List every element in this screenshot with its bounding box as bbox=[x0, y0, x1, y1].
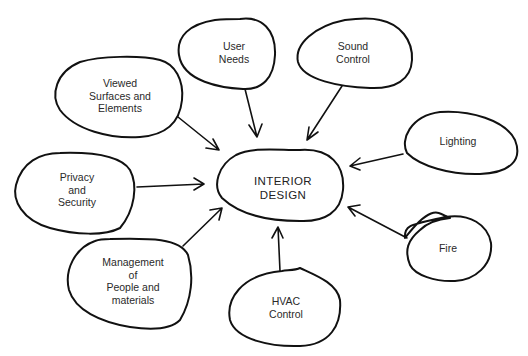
privacy-security-label: Privacy and Security bbox=[58, 171, 96, 209]
center-node-label: INTERIOR DESIGN bbox=[254, 174, 312, 202]
viewed-surfaces-label: Viewed Surfaces and Elements bbox=[89, 77, 151, 115]
hvac-control-label: HVAC Control bbox=[269, 295, 303, 320]
sound-control-label: Sound Control bbox=[336, 40, 370, 65]
lighting-label: Lighting bbox=[440, 135, 477, 148]
fire-label: Fire bbox=[439, 242, 457, 255]
user-needs-label: User Needs bbox=[219, 40, 249, 65]
management-label: Management of People and materials bbox=[102, 256, 163, 306]
interior-design-concept-map: INTERIOR DESIGN User Needs Sound Control… bbox=[0, 0, 528, 356]
